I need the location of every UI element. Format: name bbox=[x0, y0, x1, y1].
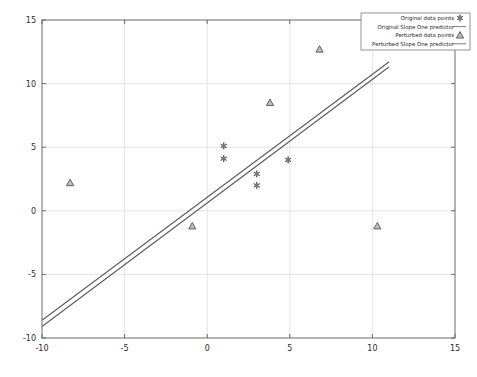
legend-label: Original data points bbox=[401, 15, 454, 22]
plot-frame bbox=[42, 20, 455, 338]
y-tick-label: 15 bbox=[26, 16, 36, 25]
data-point-triangle bbox=[316, 46, 323, 52]
data-point-asterisk bbox=[221, 155, 227, 162]
fit-line bbox=[42, 67, 389, 326]
x-tick-label: -10 bbox=[35, 344, 48, 353]
legend: Original data pointsOriginal Slope One p… bbox=[361, 13, 470, 50]
data-markers-group bbox=[66, 46, 380, 229]
fit-lines-group bbox=[42, 62, 389, 327]
data-point-asterisk bbox=[221, 143, 227, 150]
data-point-asterisk bbox=[254, 182, 260, 189]
y-tick-label: 5 bbox=[31, 143, 36, 152]
gridlines-group bbox=[42, 20, 455, 338]
tick-marks-group bbox=[42, 20, 455, 338]
fit-line bbox=[42, 62, 389, 320]
x-tick-label: 10 bbox=[367, 344, 377, 353]
data-point-triangle bbox=[66, 179, 73, 185]
y-tick-label: -5 bbox=[28, 270, 36, 279]
figure-canvas: -10-5051015-10-5051015 Original data poi… bbox=[0, 0, 477, 377]
legend-label: Perturbed Slope One predictor bbox=[372, 41, 455, 48]
y-tick-label: 10 bbox=[26, 80, 36, 89]
y-tick-label: 0 bbox=[31, 207, 36, 216]
data-point-triangle bbox=[266, 99, 273, 105]
axes-group bbox=[42, 20, 455, 338]
x-tick-label: 15 bbox=[450, 344, 460, 353]
tick-labels-group: -10-5051015-10-5051015 bbox=[23, 16, 460, 353]
x-tick-label: 0 bbox=[205, 344, 210, 353]
legend-label: Original Slope One predictor bbox=[377, 24, 454, 31]
data-point-asterisk bbox=[285, 157, 291, 164]
data-point-triangle bbox=[374, 222, 381, 228]
x-tick-label: 5 bbox=[287, 344, 292, 353]
legend-label: Perturbed data points bbox=[395, 32, 454, 39]
x-tick-label: -5 bbox=[121, 344, 129, 353]
y-tick-label: -10 bbox=[23, 334, 36, 343]
data-point-triangle bbox=[189, 222, 196, 228]
data-point-asterisk bbox=[254, 171, 260, 178]
scatter-plot: -10-5051015-10-5051015 Original data poi… bbox=[0, 0, 477, 377]
